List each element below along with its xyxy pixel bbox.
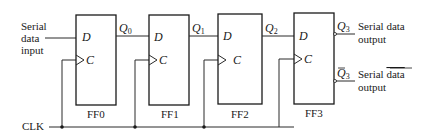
- q1-output-label: Q1: [192, 21, 205, 36]
- q2-output-label: Q2: [265, 21, 278, 36]
- svg-text:C: C: [233, 53, 242, 67]
- svg-text:FF1: FF1: [161, 108, 179, 120]
- clk-tap-ff1: [135, 60, 149, 127]
- svg-text:FF0: FF0: [87, 108, 105, 120]
- svg-text:C: C: [86, 53, 95, 67]
- svg-text:Q3: Q3: [337, 19, 350, 34]
- q0-output-label: Q0: [119, 21, 132, 36]
- svg-text:Q3: Q3: [337, 66, 350, 81]
- svg-text:Serial data: Serial data: [358, 68, 405, 80]
- svg-text:Q0: Q0: [119, 21, 132, 36]
- svg-text:FF3: FF3: [305, 107, 323, 119]
- svg-text:FF2: FF2: [231, 108, 249, 120]
- svg-text:output: output: [358, 33, 386, 45]
- svg-text:output: output: [358, 81, 386, 93]
- svg-text:data: data: [21, 32, 39, 44]
- svg-text:D: D: [81, 30, 91, 44]
- flip-flop-ff1: D C FF1: [149, 15, 189, 120]
- svg-text:C: C: [159, 53, 168, 67]
- clk-tap-ff0: [62, 60, 76, 127]
- clk-label: CLK: [22, 120, 44, 132]
- shift-register-diagram: Serial data input CLK D C FF0 Q0 D C FF1…: [0, 0, 422, 139]
- svg-text:input: input: [21, 44, 44, 56]
- flip-flop-ff0: D C FF0: [76, 15, 116, 120]
- svg-text:D: D: [222, 29, 232, 43]
- junction-dot: [60, 125, 64, 129]
- svg-text:Q2: Q2: [265, 21, 278, 36]
- q3bar-output-label: Q3: [337, 66, 350, 81]
- junction-dot: [133, 125, 137, 129]
- svg-text:Q1: Q1: [192, 21, 205, 36]
- serial-data-bar-output-label: Serial data output: [358, 68, 412, 93]
- svg-text:C: C: [304, 52, 313, 66]
- svg-text:D: D: [298, 29, 308, 43]
- svg-text:Serial data: Serial data: [358, 20, 405, 32]
- flip-flop-ff3: D C FF3: [294, 13, 334, 119]
- q3-output-label: Q3: [337, 19, 350, 34]
- junction-dot: [202, 125, 206, 129]
- flip-flop-ff2: D C FF2: [218, 14, 262, 120]
- serial-data-output-label: Serial data output: [358, 20, 405, 45]
- svg-text:Serial: Serial: [21, 20, 47, 32]
- svg-text:D: D: [153, 30, 163, 44]
- clk-tap-ff2: [204, 60, 218, 127]
- clk-tap-ff3: [279, 59, 294, 127]
- serial-data-input-label: Serial data input: [21, 20, 47, 56]
